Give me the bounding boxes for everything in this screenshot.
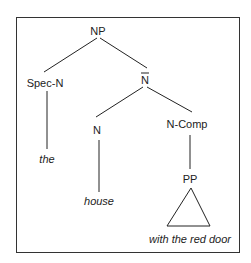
node-n-bar: N (141, 75, 149, 86)
node-spec-n: Spec-N (27, 78, 64, 89)
edge-np-nbar (100, 38, 147, 68)
pp-triangle (167, 188, 210, 226)
edge-nbar-ncomp (147, 87, 192, 112)
leaf-the: the (39, 154, 54, 165)
node-n-comp: N-Comp (167, 119, 208, 130)
edge-np-spec (44, 38, 97, 72)
leaf-with-the-red-door: with the red door (149, 234, 231, 245)
leaf-house: house (84, 196, 114, 207)
node-n: N (93, 125, 101, 136)
tree-edges (0, 0, 251, 263)
node-np: NP (90, 26, 105, 37)
edge-nbar-n (96, 87, 143, 117)
node-pp: PP (183, 174, 198, 185)
